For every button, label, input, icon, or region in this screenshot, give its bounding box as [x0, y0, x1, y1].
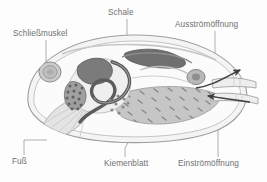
label-kiemenblatt: Kiemenblatt — [104, 160, 148, 168]
adductor-muscle-posterior-core — [192, 74, 200, 81]
label-ausstroemoeffnung: Ausströmöffnung — [175, 21, 238, 29]
adductor-muscle-anterior-core — [47, 69, 53, 75]
label-schliessmuskel: Schließmuskel — [13, 30, 68, 38]
leader-fuss — [24, 140, 47, 155]
gonad — [64, 82, 86, 111]
mussel-anatomy-figure: Schließmuskel Schale Ausströmöffnung Fuß… — [0, 0, 267, 182]
label-fuss: Fuß — [12, 158, 27, 166]
label-schale: Schale — [108, 9, 134, 17]
label-einstroemoeffnung: Einströmöffnung — [178, 160, 239, 168]
